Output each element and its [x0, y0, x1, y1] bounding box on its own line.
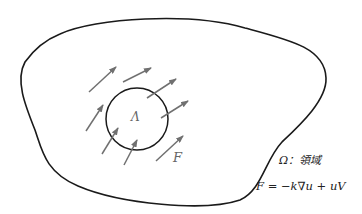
flux-arrow: [124, 140, 137, 165]
region-label: Ω：領域: [279, 151, 321, 167]
flux-arrow: [161, 101, 188, 118]
flux-equation: F = −k∇u + uV: [256, 179, 346, 193]
flux-label: F: [173, 150, 182, 165]
flux-arrow: [86, 105, 103, 131]
region-omega-boundary: [21, 19, 326, 206]
flux-arrow: [147, 79, 176, 98]
flux-arrow: [89, 67, 116, 92]
flux-arrow: [123, 68, 151, 82]
circle-label: Λ: [131, 110, 140, 124]
